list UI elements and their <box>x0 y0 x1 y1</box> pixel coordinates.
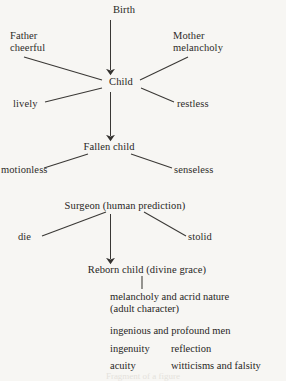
outcome-nature-line-2: (adult character) <box>110 303 179 316</box>
outcome-nature-line-1: melancholy and acrid nature <box>110 291 229 304</box>
label-lively: lively <box>13 98 38 110</box>
node-surgeon: Surgeon (human prediction) <box>65 200 186 212</box>
edge-mother-to-child <box>140 57 188 80</box>
trait-row-1-left: ingenuity <box>110 343 150 354</box>
edge-father-to-child <box>24 57 102 80</box>
node-fallen-child: Fallen child <box>83 141 134 153</box>
edge-fallen-to-motionless <box>44 154 88 168</box>
label-senseless: senseless <box>174 164 213 176</box>
node-reborn-child: Reborn child (divine grace) <box>88 264 206 276</box>
edge-restless-to-child <box>141 88 174 102</box>
trait-row-1-right: reflection <box>171 343 211 354</box>
edge-fallen-to-senseless <box>131 154 172 168</box>
label-die: die <box>18 231 31 243</box>
trait-row-2-right: witticisms and falsity <box>171 360 261 371</box>
label-restless: restless <box>177 98 209 110</box>
label-stolid: stolid <box>188 231 212 243</box>
edge-lively-to-child <box>45 88 102 102</box>
outcome-heading: ingenious and profound men <box>110 325 230 338</box>
node-child: Child <box>109 76 133 88</box>
label-father-cheerful: Father cheerful <box>10 30 45 53</box>
edge-die-to-surgeon <box>42 212 106 236</box>
caption-bleed-through: Fragment of a figure <box>0 371 286 381</box>
edge-stolid-to-surgeon <box>144 212 186 236</box>
node-birth: Birth <box>113 4 135 16</box>
label-mother-melancholy: Mother melancholy <box>173 30 223 53</box>
label-motionless: motionless <box>1 164 48 176</box>
trait-row-2-left: acuity <box>110 360 136 371</box>
